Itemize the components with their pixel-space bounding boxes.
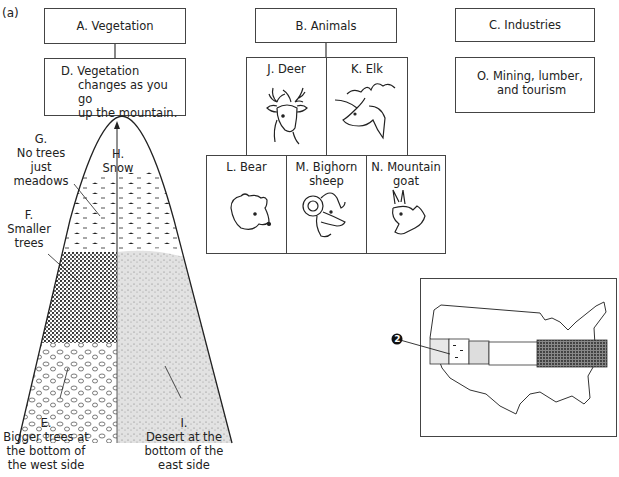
map-marker-number: 2 [392, 332, 403, 346]
us-map [0, 0, 619, 477]
